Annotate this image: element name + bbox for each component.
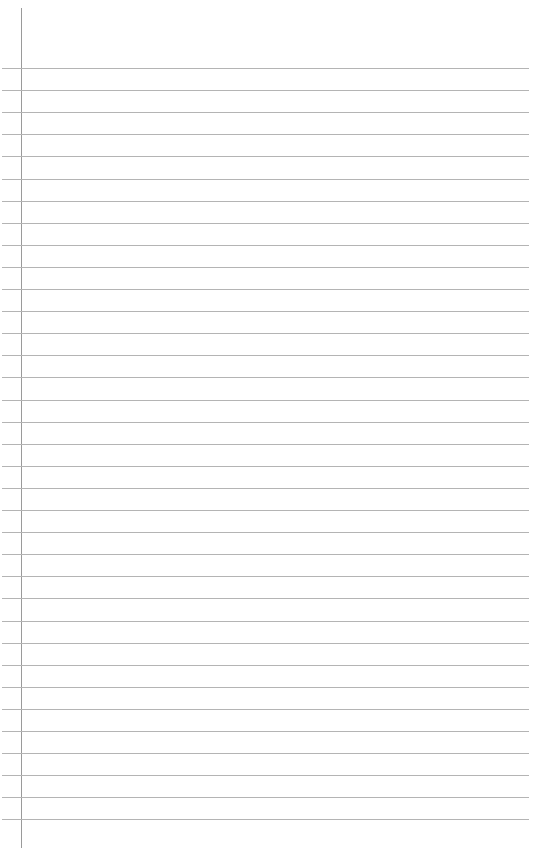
ruled-line xyxy=(2,510,529,511)
ruled-line xyxy=(2,156,529,157)
ruled-line xyxy=(2,377,529,378)
ruled-line xyxy=(2,775,529,776)
ruled-line xyxy=(2,422,529,423)
ruled-line xyxy=(2,554,529,555)
ruled-line xyxy=(2,731,529,732)
ruled-line xyxy=(2,90,529,91)
ruled-line xyxy=(2,598,529,599)
ruled-line xyxy=(2,245,529,246)
ruled-line xyxy=(2,134,529,135)
ruled-line xyxy=(2,112,529,113)
ruled-line xyxy=(2,179,529,180)
ruled-line xyxy=(2,532,529,533)
ruled-line xyxy=(2,621,529,622)
ruled-line xyxy=(2,400,529,401)
ruled-line xyxy=(2,819,529,820)
ruled-line xyxy=(2,488,529,489)
ruled-line xyxy=(2,643,529,644)
ruled-line xyxy=(2,797,529,798)
ruled-line xyxy=(2,444,529,445)
ruled-line xyxy=(2,709,529,710)
lined-paper xyxy=(0,0,536,862)
ruled-line xyxy=(2,466,529,467)
ruled-line xyxy=(2,223,529,224)
ruled-line xyxy=(2,68,529,69)
ruled-line xyxy=(2,665,529,666)
ruled-line xyxy=(2,289,529,290)
ruled-line xyxy=(2,687,529,688)
ruled-line xyxy=(2,267,529,268)
ruled-line xyxy=(2,576,529,577)
ruled-line xyxy=(2,311,529,312)
ruled-line xyxy=(2,753,529,754)
ruled-line xyxy=(2,355,529,356)
ruled-line xyxy=(2,333,529,334)
ruled-line xyxy=(2,201,529,202)
